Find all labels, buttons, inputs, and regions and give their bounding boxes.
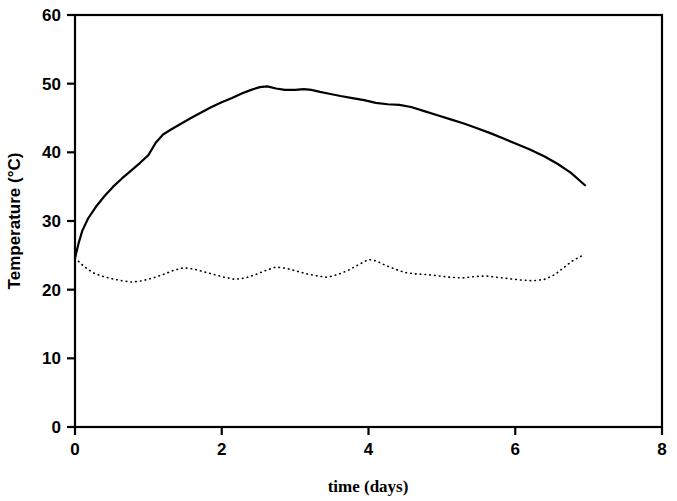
x-tick-label-0: 0 bbox=[70, 440, 79, 459]
series-solid-curve bbox=[75, 86, 585, 258]
x-tick-label-8: 8 bbox=[657, 440, 666, 459]
y-tick-label-20: 20 bbox=[42, 281, 61, 300]
y-tick-label-30: 30 bbox=[42, 212, 61, 231]
series-dotted-curve bbox=[75, 255, 583, 282]
y-axis-ticks bbox=[67, 15, 75, 427]
y-axis-title: Temperature (°C) bbox=[5, 153, 24, 290]
chart-figure: 0102030405060 02468 time (days) Temperat… bbox=[0, 0, 677, 501]
chart-canvas: 0102030405060 02468 time (days) Temperat… bbox=[0, 0, 677, 501]
x-axis-title: time (days) bbox=[328, 477, 409, 496]
y-tick-label-60: 60 bbox=[42, 6, 61, 25]
y-tick-label-0: 0 bbox=[52, 418, 61, 437]
x-tick-label-2: 2 bbox=[217, 440, 226, 459]
axes-frame bbox=[75, 15, 662, 427]
y-tick-label-50: 50 bbox=[42, 75, 61, 94]
y-tick-label-40: 40 bbox=[42, 143, 61, 162]
x-tick-label-4: 4 bbox=[364, 440, 374, 459]
data-series-group bbox=[75, 86, 585, 282]
x-axis-ticks bbox=[75, 427, 662, 435]
y-tick-label-10: 10 bbox=[42, 349, 61, 368]
x-tick-label-6: 6 bbox=[511, 440, 520, 459]
plot-border bbox=[75, 15, 662, 427]
y-axis-tick-labels: 0102030405060 bbox=[42, 6, 61, 437]
x-axis-tick-labels: 02468 bbox=[70, 440, 666, 459]
